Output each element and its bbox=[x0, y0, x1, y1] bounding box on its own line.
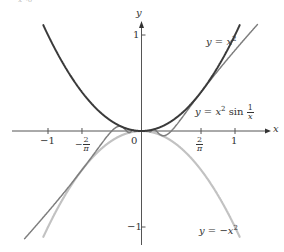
y-axis-arrow-icon bbox=[139, 21, 144, 28]
denominator: π bbox=[197, 145, 202, 153]
label-x-squared: y = x2 bbox=[206, 37, 237, 47]
cropped-header-text: x→0 bbox=[18, 0, 32, 4]
label-eq: = bbox=[212, 36, 227, 47]
denominator: x bbox=[248, 113, 253, 121]
tick-label-y-neg1: −1 bbox=[127, 222, 142, 232]
plot-area bbox=[0, 0, 284, 252]
denominator: π bbox=[83, 145, 88, 153]
tick-label-x-1: 1 bbox=[231, 136, 237, 146]
tick-label-x-neg1: −1 bbox=[40, 136, 55, 146]
label-fn: sin bbox=[226, 106, 247, 117]
label-exp: 2 bbox=[233, 224, 237, 232]
label-exp: 2 bbox=[232, 35, 236, 43]
label-neg-x-squared: y = −x2 bbox=[199, 226, 238, 236]
y-axis-label: y bbox=[136, 8, 142, 18]
fraction: 2π bbox=[83, 136, 90, 153]
tick-label-x-2pi: 2π bbox=[196, 136, 203, 153]
tick-label-x-neg2pi: −2π bbox=[75, 136, 90, 153]
fraction: 1x bbox=[247, 104, 254, 121]
tick-label-x-zero: 0 bbox=[131, 136, 137, 146]
x-axis-arrow-icon bbox=[265, 129, 271, 134]
fraction: 2π bbox=[196, 136, 203, 153]
label-x-squared-sin: y = x2 sin 1x bbox=[195, 104, 254, 121]
x-axis-label: x bbox=[273, 124, 279, 134]
minus-sign: − bbox=[75, 139, 83, 149]
label-eq: = bbox=[201, 106, 216, 117]
label-eq: = − bbox=[205, 225, 228, 236]
tick-label-y-1: 1 bbox=[133, 30, 139, 40]
